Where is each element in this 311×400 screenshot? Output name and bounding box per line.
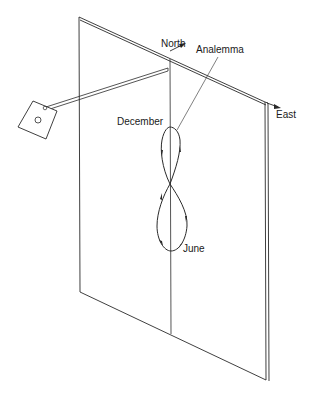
june-label: June [183, 243, 205, 254]
aperture-plate [18, 101, 57, 139]
east-label: East [276, 109, 296, 120]
analemma-leader-line [177, 57, 218, 130]
wall-panel [79, 17, 269, 381]
meridian-line [170, 59, 171, 334]
arrow-icon [160, 193, 162, 200]
analemma-label: Analemma [196, 44, 244, 55]
north-label: North [161, 38, 185, 49]
december-label: December [117, 116, 164, 127]
gnomon-rod [46, 68, 168, 110]
analemma-diagram: North Analemma East December June [0, 0, 311, 400]
analemma-curve [157, 127, 187, 251]
